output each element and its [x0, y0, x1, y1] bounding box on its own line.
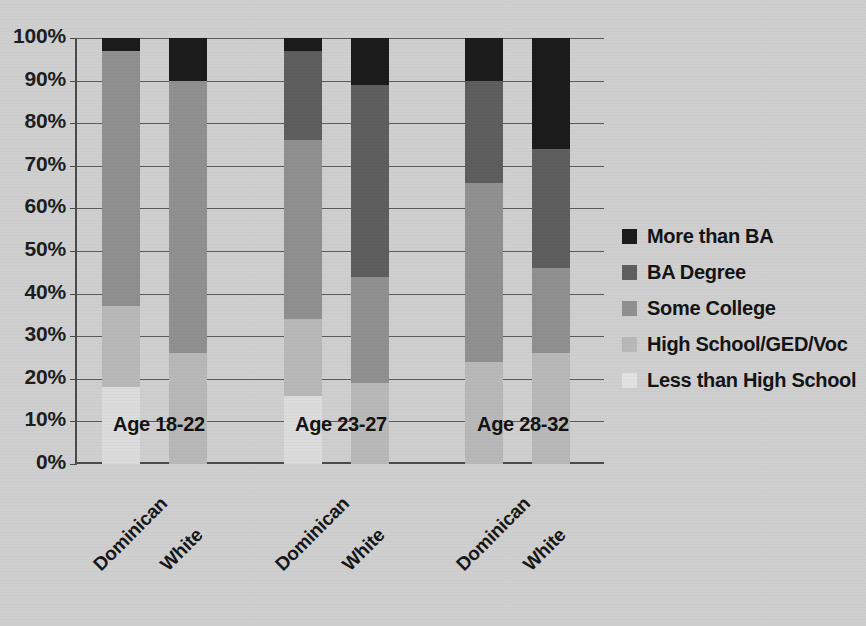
bar-segment[interactable]	[169, 38, 207, 81]
y-axis-tick-label: 80%	[0, 109, 66, 133]
bar-segment[interactable]	[532, 149, 570, 268]
y-axis-tick	[70, 336, 77, 337]
gridline	[77, 336, 604, 337]
stacked-bar[interactable]	[169, 38, 207, 464]
legend-item[interactable]: Less than High School	[622, 362, 856, 398]
gridline	[77, 251, 604, 252]
legend-swatch-icon	[622, 229, 637, 244]
chart-legend: More than BABA DegreeSome CollegeHigh Sc…	[622, 218, 856, 398]
stacked-bar[interactable]	[351, 38, 389, 464]
y-axis-tick-label: 60%	[0, 194, 66, 218]
bar-segment[interactable]	[532, 353, 570, 464]
legend-swatch-icon	[622, 301, 637, 316]
y-axis-tick-label: 20%	[0, 365, 66, 389]
chart-page: 100%90%80%70%60%50%40%30%20%10%0% Age 18…	[0, 0, 866, 626]
legend-item[interactable]: Some College	[622, 290, 856, 326]
bar-segment[interactable]	[465, 81, 503, 183]
legend-label: More than BA	[647, 225, 773, 248]
bar-segment[interactable]	[351, 38, 389, 85]
bar-segment[interactable]	[465, 38, 503, 81]
y-axis-tick	[70, 81, 77, 82]
y-axis-tick	[70, 464, 77, 465]
y-axis-tick-label: 90%	[0, 67, 66, 91]
bar-segment[interactable]	[532, 268, 570, 353]
y-axis-tick	[70, 166, 77, 167]
legend-item[interactable]: High School/GED/Voc	[622, 326, 856, 362]
gridline	[77, 379, 604, 380]
plot-area	[75, 38, 604, 464]
gridline	[77, 38, 604, 39]
y-axis-tick	[70, 294, 77, 295]
bar-segment[interactable]	[284, 38, 322, 51]
gridline	[77, 294, 604, 295]
y-axis-tick	[70, 123, 77, 124]
y-axis-tick-label: 10%	[0, 407, 66, 431]
bar-segment[interactable]	[351, 277, 389, 384]
legend-label: High School/GED/Voc	[647, 333, 848, 356]
legend-label: Less than High School	[647, 369, 856, 392]
gridline	[77, 166, 604, 167]
y-axis-tick	[70, 421, 77, 422]
bar-segment[interactable]	[169, 353, 207, 464]
stacked-bar[interactable]	[532, 38, 570, 464]
y-axis-tick-label: 0%	[0, 450, 66, 474]
y-axis-tick	[70, 379, 77, 380]
y-axis-tick	[70, 251, 77, 252]
legend-label: BA Degree	[647, 261, 746, 284]
stacked-bar[interactable]	[465, 38, 503, 464]
legend-item[interactable]: BA Degree	[622, 254, 856, 290]
gridline	[77, 81, 604, 82]
legend-label: Some College	[647, 297, 776, 320]
y-axis-tick-label: 30%	[0, 322, 66, 346]
legend-item[interactable]: More than BA	[622, 218, 856, 254]
bar-segment[interactable]	[102, 51, 140, 307]
bar-segment[interactable]	[284, 51, 322, 140]
y-axis-tick	[70, 38, 77, 39]
bar-segment[interactable]	[169, 81, 207, 354]
y-axis-tick-label: 100%	[0, 24, 66, 48]
age-group-label: Age 28-32	[477, 413, 569, 436]
bar-segment[interactable]	[465, 183, 503, 362]
bar-segment[interactable]	[532, 38, 570, 149]
legend-swatch-icon	[622, 265, 637, 280]
x-axis-tick-label: White	[156, 524, 207, 575]
bar-segment[interactable]	[351, 85, 389, 277]
legend-swatch-icon	[622, 337, 637, 352]
y-axis-tick-label: 50%	[0, 237, 66, 261]
x-axis-tick-label: White	[519, 524, 570, 575]
bar-segment[interactable]	[284, 319, 322, 396]
y-axis-tick-label: 40%	[0, 280, 66, 304]
gridline	[77, 123, 604, 124]
age-group-label: Age 23-27	[295, 413, 387, 436]
age-group-label: Age 18-22	[113, 413, 205, 436]
y-axis-tick	[70, 208, 77, 209]
bar-segment[interactable]	[102, 38, 140, 51]
stacked-bar[interactable]	[102, 38, 140, 464]
gridline	[77, 208, 604, 209]
bar-segment[interactable]	[284, 140, 322, 319]
bar-segment[interactable]	[102, 306, 140, 387]
stacked-bar[interactable]	[284, 38, 322, 464]
y-axis-tick-label: 70%	[0, 152, 66, 176]
x-axis-tick-label: White	[338, 524, 389, 575]
legend-swatch-icon	[622, 373, 637, 388]
